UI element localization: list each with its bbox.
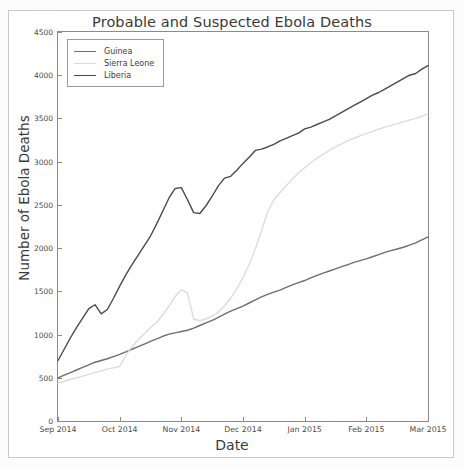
y-tick-label: 500 [39,373,53,382]
series-line-guinea [58,237,428,378]
x-tick-label: Sep 2014 [39,425,76,434]
x-tick-label: Jan 2015 [287,425,321,434]
legend-swatch-icon [74,75,96,76]
y-tick-label: 4500 [34,28,53,37]
x-tick-mark [428,417,429,421]
x-tick-label: Mar 2015 [409,425,446,434]
y-tick-label: 2500 [34,200,53,209]
y-tick-label: 1500 [34,287,53,296]
y-tick-label: 2000 [34,244,53,253]
legend-label: Liberia [104,71,131,80]
y-tick-label: 4000 [34,71,53,80]
x-axis-label: Date [0,437,464,453]
x-tick-label: Nov 2014 [163,425,201,434]
y-tick-label: 3500 [34,114,53,123]
x-tick-label: Feb 2015 [348,425,384,434]
y-axis-label: Number of Ebola Deaths [16,98,32,298]
chart-title: Probable and Suspected Ebola Deaths [0,14,464,30]
legend-swatch-icon [74,63,96,64]
y-tick-label: 1000 [34,330,53,339]
legend-label: Sierra Leone [104,59,154,68]
y-tick-mark [58,421,62,422]
legend-item-guinea[interactable]: Guinea [74,45,154,57]
series-line-liberia [58,66,428,361]
legend-item-sierra-leone[interactable]: Sierra Leone [74,57,154,69]
legend-item-liberia[interactable]: Liberia [74,69,154,81]
legend-swatch-icon [74,51,96,52]
x-tick-label: Dec 2014 [224,425,261,434]
legend-label: Guinea [104,47,132,56]
series-lines [58,32,428,421]
y-tick-label: 3000 [34,157,53,166]
legend: GuineaSierra LeoneLiberia [67,39,164,87]
x-tick-label: Oct 2014 [102,425,138,434]
plot-area: 050010001500200025003000350040004500 Sep… [57,31,429,422]
series-line-sierra-leone [58,114,428,383]
chart-root: Probable and Suspected Ebola Deaths Numb… [0,0,464,469]
